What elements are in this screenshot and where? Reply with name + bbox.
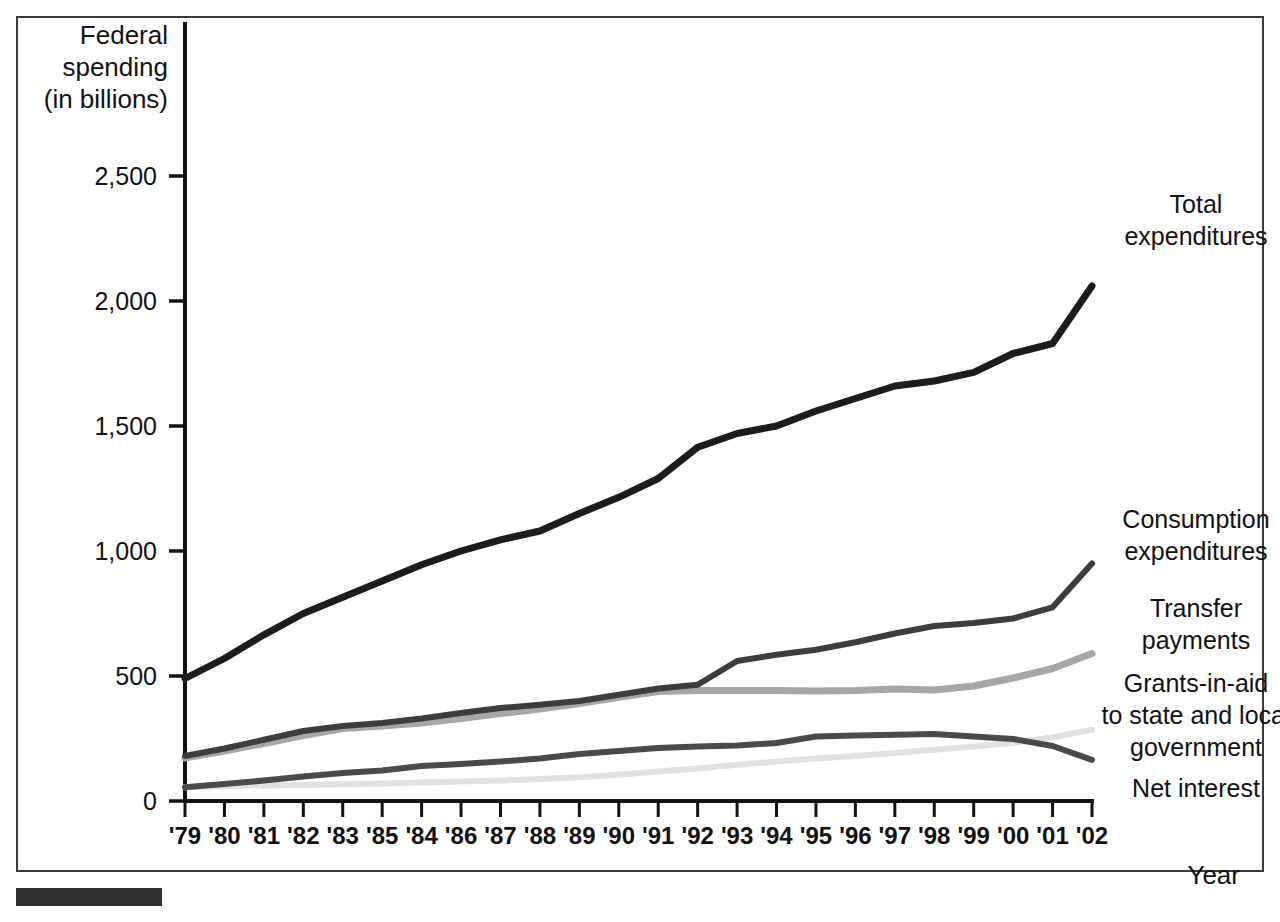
y-axis-title-line1: Federal xyxy=(80,20,168,50)
y-tick-label-1,000: 1,000 xyxy=(94,537,157,565)
x-tick-label-y98: '98 xyxy=(918,822,950,849)
series-label-net-interest-line1: Net interest xyxy=(1132,774,1260,802)
x-tick-label-y95: '95 xyxy=(800,822,832,849)
y-tick-label-0: 0 xyxy=(143,787,157,815)
x-tick-label-y87: '87 xyxy=(484,822,516,849)
series-label-consumption-expenditures: Consumption expenditures xyxy=(1122,505,1269,565)
line-chart: Federal spending (in billions) 05001,000… xyxy=(0,0,1280,922)
series-label-total-expenditures: Total expenditures xyxy=(1124,190,1267,250)
x-tick-label-y89: '89 xyxy=(563,822,595,849)
x-tick-label-y88: '88 xyxy=(524,822,556,849)
series-line-transfer-payments xyxy=(185,654,1092,759)
series-label-grants-line1: Grants-in-aid xyxy=(1124,669,1269,697)
x-tick-label-y80: '80 xyxy=(208,822,240,849)
series-line-total-expenditures xyxy=(185,286,1092,679)
x-tick-label-y01: '01 xyxy=(1036,822,1068,849)
x-tick-label-y92: '92 xyxy=(681,822,713,849)
x-axis-title: Year xyxy=(1187,860,1240,890)
x-tick-label-y94: '94 xyxy=(760,822,793,849)
series-lines-group xyxy=(185,286,1092,787)
series-label-net-interest: Net interest xyxy=(1132,774,1260,802)
series-line-net-interest xyxy=(185,734,1092,787)
series-label-transfer-payments: Transfer payments xyxy=(1142,594,1250,654)
y-tick-label-2,000: 2,000 xyxy=(94,287,157,315)
x-tick-label-y85: '85 xyxy=(366,822,398,849)
x-tick-label-y84: '84 xyxy=(405,822,438,849)
y-tick-label-500: 500 xyxy=(115,662,157,690)
series-label-grants-line2: to state and local xyxy=(1101,701,1280,729)
series-line-grants-in-aid-to-state-and-local-government xyxy=(185,730,1092,788)
x-tick-label-y91: '91 xyxy=(642,822,674,849)
y-tick-label-1,500: 1,500 xyxy=(94,412,157,440)
series-line-consumption-expenditures xyxy=(185,564,1092,757)
x-tick-label-y97: '97 xyxy=(879,822,911,849)
x-axis-ticks: '79'80'81'82'83'85'84'86'87'88'89'90'91'… xyxy=(169,801,1108,849)
y-axis-title: Federal spending (in billions) xyxy=(44,20,168,114)
series-label-consumption-line2: expenditures xyxy=(1124,537,1267,565)
x-tick-label-y86: '86 xyxy=(445,822,477,849)
x-tick-label-y83: '83 xyxy=(327,822,359,849)
x-tick-label-y93: '93 xyxy=(721,822,753,849)
x-tick-label-y02: '02 xyxy=(1076,822,1108,849)
x-tick-label-y00: '00 xyxy=(997,822,1029,849)
x-tick-label-y90: '90 xyxy=(603,822,635,849)
series-label-grants-line3: government xyxy=(1130,733,1262,761)
series-label-transfer-line2: payments xyxy=(1142,626,1250,654)
figure-container: Federal spending (in billions) 05001,000… xyxy=(0,0,1280,922)
x-tick-label-y79: '79 xyxy=(169,822,201,849)
y-axis-ticks: 05001,0001,5002,0002,500 xyxy=(94,162,185,815)
series-label-consumption-line1: Consumption xyxy=(1122,505,1269,533)
series-label-grants-in-aid: Grants-in-aid to state and local governm… xyxy=(1101,669,1280,761)
series-label-transfer-line1: Transfer xyxy=(1150,594,1242,622)
series-label-total-line2: expenditures xyxy=(1124,222,1267,250)
x-tick-label-y99: '99 xyxy=(957,822,989,849)
x-tick-label-y82: '82 xyxy=(287,822,319,849)
x-tick-label-y96: '96 xyxy=(839,822,871,849)
x-tick-label-y81: '81 xyxy=(248,822,280,849)
y-axis-title-line3: (in billions) xyxy=(44,84,168,114)
y-tick-label-2,500: 2,500 xyxy=(94,162,157,190)
series-label-total-line1: Total xyxy=(1170,190,1223,218)
y-axis-title-line2: spending xyxy=(62,52,168,82)
